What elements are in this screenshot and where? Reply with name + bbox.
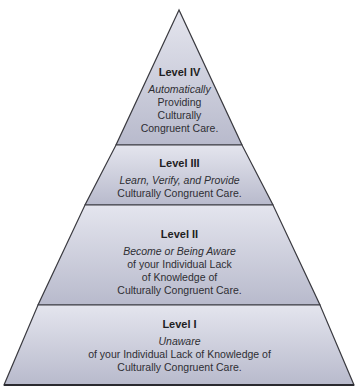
level-4-line-4: Congruent Care. [0, 122, 359, 135]
level-3-label: Level III Learn, Verify, and Provide Cul… [0, 157, 359, 200]
level-4-line-1: Automatically [0, 83, 359, 96]
level-2-label: Level II Become or Being Aware of your I… [0, 228, 359, 297]
level-2-line-3: of Knowledge of [0, 271, 359, 284]
level-4-line-3: Culturally [0, 109, 359, 122]
level-1-line-1: Unaware [0, 335, 359, 348]
level-4-title: Level IV [0, 66, 359, 79]
level-2-line-4: Culturally Congruent Care. [0, 284, 359, 297]
level-1-label: Level I Unaware of your Individual Lack … [0, 318, 359, 374]
level-2-title: Level II [0, 228, 359, 241]
level-3-title: Level III [0, 157, 359, 170]
level-2-line-1: Become or Being Aware [0, 245, 359, 258]
level-1-line-3: Culturally Congruent Care. [0, 361, 359, 374]
level-4-label: Level IV Automatically Providing Cultura… [0, 66, 359, 135]
level-3-line-1: Learn, Verify, and Provide [0, 174, 359, 187]
level-2-line-2: of your Individual Lack [0, 258, 359, 271]
level-1-line-2: of your Individual Lack of Knowledge of [0, 348, 359, 361]
level-1-title: Level I [0, 318, 359, 331]
level-4-line-2: Providing [0, 96, 359, 109]
level-3-line-2: Culturally Congruent Care. [0, 187, 359, 200]
